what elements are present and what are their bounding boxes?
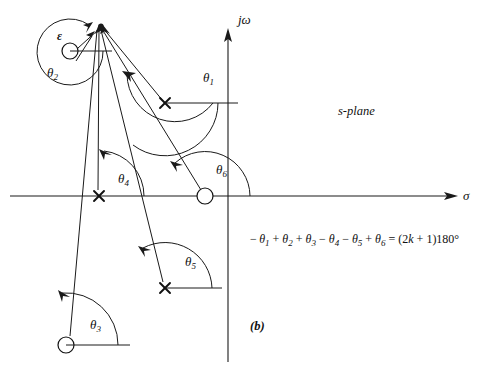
theta6-label: θ6 bbox=[216, 163, 227, 179]
s-plane-diagram bbox=[0, 0, 492, 370]
theta3-label: θ3 bbox=[90, 318, 101, 334]
theta5-subscript: 5 bbox=[191, 261, 196, 271]
equation-text: − θ1 + θ2 + θ3 − θ4 − θ5 + θ6 = (2k + 1)… bbox=[250, 232, 459, 246]
vector-theta6 bbox=[102, 29, 201, 190]
epsilon-indicator bbox=[76, 31, 95, 61]
imaginary-axis-label: jω bbox=[238, 13, 251, 26]
vector-theta1 bbox=[103, 28, 163, 101]
theta4-subscript: 4 bbox=[124, 178, 129, 188]
arc-theta2-arrowhead bbox=[83, 22, 93, 33]
vector-theta4 bbox=[98, 30, 99, 190]
s-plane-label-text: s-plane bbox=[338, 104, 375, 118]
theta3-subscript: 3 bbox=[96, 324, 101, 334]
zero-markers-group bbox=[58, 43, 213, 353]
zero-theta6-marker bbox=[197, 188, 213, 204]
subfigure-label: (b) bbox=[250, 320, 265, 333]
arc-theta6-arrowhead bbox=[170, 161, 183, 172]
theta1-subscript: 1 bbox=[209, 77, 214, 87]
angle-criterion-equation: − θ1 + θ2 + θ3 − θ4 − θ5 + θ6 = (2k + 1)… bbox=[250, 233, 459, 248]
s-plane-label: s-plane bbox=[338, 105, 375, 118]
vector-theta2 bbox=[78, 30, 98, 48]
arc-theta3-arrowhead bbox=[58, 290, 70, 302]
theta1-label: θ1 bbox=[203, 71, 214, 87]
arc-theta1-group bbox=[122, 71, 213, 122]
arc-theta4-arrowhead bbox=[99, 149, 112, 160]
theta5-label: θ5 bbox=[185, 255, 196, 271]
arc-theta5-group bbox=[138, 243, 212, 288]
theta2-subscript: 2 bbox=[53, 72, 58, 82]
theta4-label: θ4 bbox=[118, 172, 129, 188]
real-axis-label: σ bbox=[463, 189, 469, 202]
theta6-subscript: 6 bbox=[222, 169, 227, 179]
axes-group bbox=[10, 28, 458, 362]
epsilon-label: ε bbox=[57, 30, 62, 42]
vectors-group bbox=[70, 28, 201, 336]
root-locus-figure: jω σ s-plane ε θ1 θ2 θ3 θ4 θ5 θ6 − θ1 + … bbox=[0, 0, 492, 370]
theta2-label: θ2 bbox=[47, 66, 58, 82]
